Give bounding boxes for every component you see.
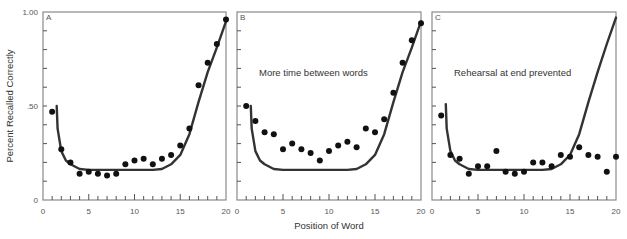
data-point [168, 152, 174, 158]
data-point [77, 171, 83, 177]
data-point [214, 41, 220, 47]
x-axis-label: Position of Word [294, 220, 364, 231]
data-point [252, 118, 258, 124]
data-point [503, 169, 509, 175]
data-point [132, 158, 138, 164]
model-curve [251, 21, 421, 170]
x-tick-label: 15 [176, 207, 185, 216]
panel-annotation: More time between words [259, 67, 368, 78]
data-point [447, 152, 453, 158]
data-point [196, 82, 202, 88]
data-point [113, 171, 119, 177]
x-tick-label: 20 [417, 207, 426, 216]
data-point [262, 129, 268, 135]
panel-b: 05101520BMore time between words [235, 12, 426, 216]
data-point [150, 161, 156, 167]
data-point [223, 17, 229, 23]
panel-annotation: Rehearsal at end prevented [454, 67, 571, 78]
x-tick-label: 0 [41, 207, 46, 216]
panel-letter: A [46, 13, 52, 22]
x-tick-label: 20 [222, 207, 231, 216]
y-tick-label-bottom: 0 [34, 196, 39, 205]
data-point [243, 103, 249, 109]
data-point [466, 171, 472, 177]
data-point [457, 156, 463, 162]
y-axis-label: Percent Recalled Correctly [4, 49, 15, 162]
x-tick-label: 15 [566, 207, 575, 216]
data-point [289, 141, 295, 147]
x-tick-label: 15 [371, 207, 380, 216]
data-point [49, 109, 55, 115]
data-point [298, 146, 304, 152]
data-point [567, 154, 573, 160]
x-tick-label: 5 [281, 207, 286, 216]
data-point [186, 126, 192, 132]
data-point [521, 169, 527, 175]
model-curve [446, 18, 616, 170]
data-point [558, 152, 564, 158]
y-tick-label-mid: .50 [27, 102, 39, 111]
data-point [372, 129, 378, 135]
x-tick-label: 10 [325, 207, 334, 216]
data-point [613, 154, 619, 160]
data-point [363, 126, 369, 132]
data-point [159, 156, 165, 162]
data-point [400, 60, 406, 66]
data-point [512, 171, 518, 177]
data-point [418, 20, 424, 26]
x-tick-label: 0 [235, 207, 240, 216]
data-point [549, 163, 555, 169]
data-point [493, 148, 499, 154]
serial-position-figure: 1.00 .50 0 Percent Recalled Correctly Po… [0, 0, 627, 239]
data-point [58, 146, 64, 152]
data-point [326, 148, 332, 154]
data-point [484, 163, 490, 169]
panel-a: 05101520A [41, 12, 231, 216]
data-point [539, 159, 545, 165]
data-point [335, 142, 341, 148]
x-tick-label: 0 [430, 207, 435, 216]
data-point [354, 144, 360, 150]
panel-c: 05101520CRehearsal at end prevented [430, 12, 621, 216]
data-point [604, 169, 610, 175]
x-tick-label: 10 [130, 207, 139, 216]
x-tick-label: 20 [612, 207, 621, 216]
data-point [308, 150, 314, 156]
data-point [475, 163, 481, 169]
x-tick-label: 5 [476, 207, 481, 216]
y-tick-label-top: 1.00 [22, 8, 38, 17]
data-point [585, 152, 591, 158]
data-point [141, 156, 147, 162]
data-point [530, 159, 536, 165]
x-tick-label: 10 [520, 207, 529, 216]
data-point [104, 173, 110, 179]
data-point [271, 131, 277, 137]
data-point [390, 90, 396, 96]
data-point [595, 154, 601, 160]
data-point [205, 60, 211, 66]
data-point [177, 142, 183, 148]
model-curve [57, 21, 226, 170]
panel-letter: B [240, 13, 245, 22]
data-point [381, 116, 387, 122]
data-point [317, 158, 323, 164]
data-point [280, 146, 286, 152]
data-point [344, 139, 350, 145]
data-point [95, 171, 101, 177]
x-tick-label: 5 [87, 207, 92, 216]
data-point [576, 144, 582, 150]
data-point [409, 37, 415, 43]
data-point [122, 161, 128, 167]
data-point [86, 169, 92, 175]
data-point [438, 112, 444, 118]
panel-letter: C [435, 13, 441, 22]
data-point [67, 159, 73, 165]
